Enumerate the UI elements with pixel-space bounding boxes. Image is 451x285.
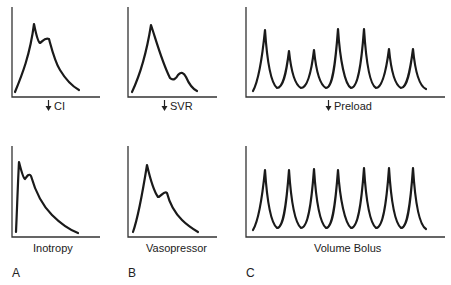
waveforms bbox=[15, 24, 426, 233]
label-preload: Preload bbox=[334, 100, 372, 112]
down-arrow-icon bbox=[45, 100, 52, 111]
label-b-bottom: Vasopressor bbox=[146, 242, 207, 254]
waveform-a-top bbox=[15, 24, 79, 92]
axis-c-top bbox=[246, 7, 445, 97]
panel-letter-c: C bbox=[246, 266, 255, 280]
waveform-a-bottom bbox=[16, 162, 78, 233]
label-a-bottom: Inotropy bbox=[33, 242, 73, 254]
axis-b-top bbox=[128, 7, 217, 97]
waveform-c-top bbox=[253, 29, 426, 91]
waveform-b-top bbox=[132, 25, 197, 92]
down-arrow-icon bbox=[161, 100, 168, 111]
label-ci: CI bbox=[54, 100, 65, 112]
axes bbox=[12, 7, 445, 237]
label-c-top: Preload bbox=[325, 100, 372, 112]
panel-letter-a: A bbox=[12, 266, 20, 280]
down-arrow-icon bbox=[325, 100, 332, 111]
axis-b-bottom bbox=[128, 146, 217, 237]
axis-a-bottom bbox=[12, 146, 100, 237]
label-svr: SVR bbox=[170, 100, 193, 112]
waveform-b-bottom bbox=[133, 165, 198, 232]
label-c-bottom: Volume Bolus bbox=[314, 242, 381, 254]
label-a-top: CI bbox=[45, 100, 65, 112]
label-b-top: SVR bbox=[161, 100, 193, 112]
waveform-c-bottom bbox=[253, 168, 426, 230]
axis-a-top bbox=[12, 7, 100, 97]
panel-letter-b: B bbox=[128, 266, 136, 280]
